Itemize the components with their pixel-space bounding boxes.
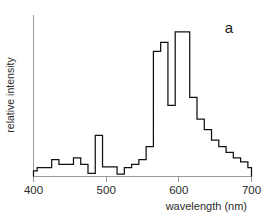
x-axis-ticks [34,177,252,182]
panel-label: a [225,19,234,36]
x-axis-title: wavelength (nm) [165,200,247,212]
spectrum-plot: 400 500 600 700 wavelength (nm) relative… [0,0,271,220]
y-axis-title: relative intensity [4,57,16,133]
x-tick-label-400: 400 [24,184,43,196]
spectrum-figure: 400 500 600 700 wavelength (nm) relative… [0,0,271,220]
spectrum-trace [34,32,252,177]
x-tick-labels: 400 500 600 700 [24,184,261,196]
x-tick-label-600: 600 [169,184,188,196]
x-tick-label-500: 500 [97,184,116,196]
x-tick-label-700: 700 [242,184,261,196]
plot-axes [34,15,252,177]
